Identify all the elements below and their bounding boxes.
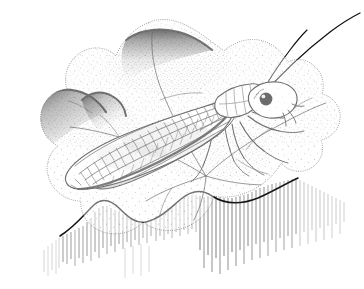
lacewing-on-leaf-illustration [0, 0, 364, 289]
illustration-figure: Adult lacewing resting on a leaf Green l… [0, 0, 364, 289]
